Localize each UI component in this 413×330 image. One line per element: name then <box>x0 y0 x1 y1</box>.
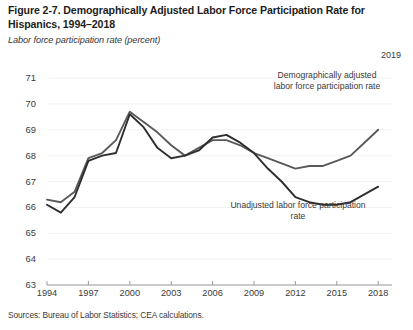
x-axis-tick-label: 2003 <box>151 288 191 298</box>
y-axis-tick-label: 65 <box>14 227 36 238</box>
y-axis-tick-label: 69 <box>14 124 36 135</box>
x-axis-tick-label: 2009 <box>234 288 274 298</box>
line-chart-svg <box>0 55 413 305</box>
x-axis-tick-label: 1994 <box>27 288 67 298</box>
y-axis-tick-label: 64 <box>14 253 36 264</box>
chart-plot-area <box>0 55 413 305</box>
x-axis-tick-label: 2018 <box>358 288 398 298</box>
y-axis-tick-label: 66 <box>14 201 36 212</box>
x-axis-tick-label: 2006 <box>193 288 233 298</box>
y-axis-tick-label: 67 <box>14 176 36 187</box>
y-axis-tick-label: 70 <box>14 98 36 109</box>
figure-container: Figure 2-7. Demographically Adjusted Lab… <box>0 0 413 330</box>
annotation-adjusted-series: Demographically adjusted labor force par… <box>272 70 382 92</box>
y-axis-tick-label: 71 <box>14 72 36 83</box>
x-axis-tick-label: 1997 <box>68 288 108 298</box>
y-axis-tick-label: 68 <box>14 150 36 161</box>
axis-units-subtitle: Labor force participation rate (percent) <box>8 35 308 45</box>
x-axis-tick-label: 2000 <box>110 288 150 298</box>
x-axis-tick-label: 2015 <box>317 288 357 298</box>
source-note: Sources: Bureau of Labor Statistics; CEA… <box>8 310 406 320</box>
page-title: Figure 2-7. Demographically Adjusted Lab… <box>8 4 406 31</box>
x-axis-tick-label: 2012 <box>275 288 315 298</box>
annotation-unadjusted-series: Unadjusted labor force participation rat… <box>228 200 368 222</box>
